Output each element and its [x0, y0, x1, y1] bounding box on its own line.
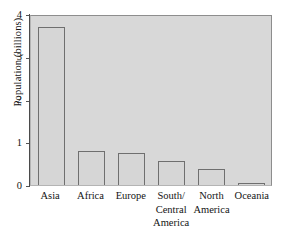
x-axis-category-label: South/CentralAmerica	[151, 189, 191, 230]
plot-area	[30, 15, 272, 186]
x-axis-category-label: Oceania	[232, 189, 272, 203]
x-axis-category-label: Asia	[30, 189, 70, 203]
population-bar-chart: Population (billions) 01234 AsiaAfricaEu…	[0, 0, 282, 232]
y-axis-tick-label: 1	[6, 138, 22, 149]
y-axis-tick-label: 0	[6, 181, 22, 192]
x-axis-category-label: Africa	[70, 189, 110, 203]
x-axis-label-line: Europe	[111, 189, 151, 203]
y-axis-tick-label: 4	[6, 10, 22, 21]
y-axis-tick-label: 2	[6, 95, 22, 106]
x-axis-label-line: Asia	[30, 189, 70, 203]
x-axis-label-line: America	[191, 203, 231, 217]
y-axis-tick-labels: 01234	[0, 0, 30, 232]
bar	[38, 27, 65, 185]
bar	[158, 161, 185, 185]
bar	[78, 151, 105, 185]
x-axis-category-label: Europe	[111, 189, 151, 203]
bar	[238, 183, 265, 185]
y-axis-tick-label: 3	[6, 52, 22, 63]
x-axis-label-line: Central	[151, 203, 191, 217]
bar	[198, 169, 225, 185]
x-axis-label-line: South/	[151, 189, 191, 203]
x-axis-category-labels: AsiaAfricaEuropeSouth/CentralAmericaNort…	[30, 189, 272, 232]
x-axis-label-line: America	[151, 216, 191, 230]
bar	[118, 153, 145, 185]
x-axis-label-line: Africa	[70, 189, 110, 203]
x-axis-label-line: North	[191, 189, 231, 203]
bar-series	[31, 16, 271, 185]
x-axis-category-label: NorthAmerica	[191, 189, 231, 216]
x-axis-label-line: Oceania	[232, 189, 272, 203]
